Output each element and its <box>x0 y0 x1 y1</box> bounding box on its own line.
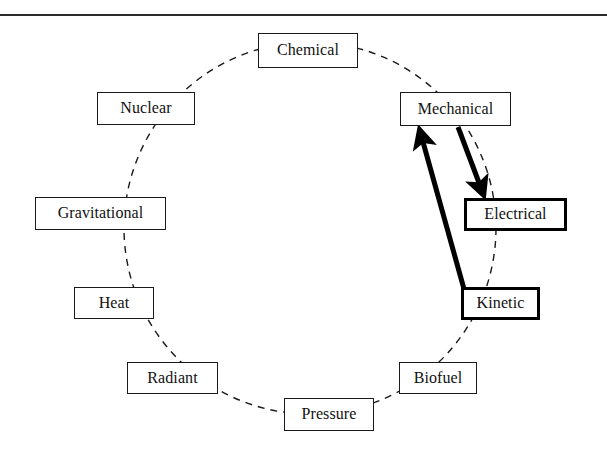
node-pressure[interactable]: Pressure <box>284 398 374 431</box>
node-gravitational[interactable]: Gravitational <box>35 197 166 230</box>
node-radiant-label: Radiant <box>147 370 197 387</box>
node-mechanical[interactable]: Mechanical <box>400 92 511 126</box>
node-kinetic[interactable]: Kinetic <box>461 287 540 320</box>
node-electrical[interactable]: Electrical <box>464 198 567 231</box>
node-biofuel[interactable]: Biofuel <box>399 362 477 394</box>
arrow-mechanical-to-electrical <box>458 127 483 192</box>
node-heat-label: Heat <box>99 295 130 312</box>
node-biofuel-label: Biofuel <box>414 370 463 387</box>
arrow-kinetic-to-mechanical <box>421 133 465 289</box>
node-electrical-label: Electrical <box>484 206 546 223</box>
node-mechanical-label: Mechanical <box>418 101 494 118</box>
node-heat[interactable]: Heat <box>74 287 154 319</box>
node-chemical-label: Chemical <box>277 42 339 59</box>
node-pressure-label: Pressure <box>301 406 356 423</box>
node-kinetic-label: Kinetic <box>477 295 525 312</box>
diagram-page: Chemical Mechanical Electrical Kinetic B… <box>0 0 607 461</box>
node-chemical[interactable]: Chemical <box>258 33 358 68</box>
node-nuclear-label: Nuclear <box>120 100 171 117</box>
node-gravitational-label: Gravitational <box>58 205 144 222</box>
node-radiant[interactable]: Radiant <box>127 362 218 394</box>
node-nuclear[interactable]: Nuclear <box>97 92 195 125</box>
